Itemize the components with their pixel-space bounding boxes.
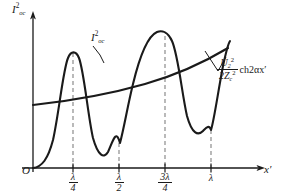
envelope-denominator: 2Zc2 [217, 69, 238, 82]
oscillating-curve-label: I2oc [91, 31, 105, 44]
tick-label-three-quarter-lambda: 3λ 4 [154, 172, 176, 193]
envelope-fraction: U22 2Zc2 [217, 57, 238, 82]
envelope-curve-label: U22 2Zc2 ch2αx′ [217, 57, 266, 82]
tick-fraction-half-lambda: λ 2 [115, 172, 124, 193]
tick-numerator-three-quarter-lambda: 3λ [158, 172, 171, 182]
x-axis-label: x′ [264, 164, 271, 175]
y-axis-label-subscript: oc [19, 9, 25, 16]
envelope-denominator-exponent: 2 [232, 69, 235, 76]
tick-label-quarter-lambda: λ 4 [63, 172, 83, 193]
tick-fraction-three-quarter-lambda: 3λ 4 [158, 172, 171, 193]
tick-fraction-quarter-lambda: λ 4 [69, 172, 78, 193]
oscillating-curve [33, 53, 119, 168]
y-axis [30, 11, 36, 172]
tick-denominator-quarter-lambda: 4 [69, 182, 78, 193]
tick-numerator-quarter-lambda: λ [69, 172, 78, 182]
y-axis-label: I2oc [12, 3, 26, 16]
tick-numerator-lambda: λ [207, 173, 215, 183]
envelope-numerator: U22 [217, 57, 238, 69]
envelope-denominator-base: 2Z [219, 70, 230, 81]
tick-label-half-lambda: λ 2 [109, 172, 129, 193]
figure-canvas: I2oc I2oc U22 2Zc2 ch2αx′ O x′ λ 4 λ 2 3… [0, 0, 288, 196]
plot-svg [0, 0, 288, 196]
oscillating-curve-label-subscript: oc [98, 37, 104, 44]
tick-numerator-half-lambda: λ [115, 172, 124, 182]
origin-label: O [22, 165, 30, 176]
x-axis [22, 165, 265, 171]
oscillating-curve-main [33, 31, 230, 168]
tick-denominator-half-lambda: 2 [115, 182, 124, 193]
envelope-numerator-subscript: 2 [228, 63, 231, 69]
envelope-numerator-exponent: 2 [231, 56, 234, 63]
oscillating-curve-leader-line [93, 46, 104, 63]
envelope-numerator-base: U [221, 57, 228, 68]
envelope-denominator-subscript: c [230, 76, 233, 82]
envelope-cosh-term: ch2αx′ [238, 65, 267, 75]
tick-fraction-lambda: λ [207, 173, 215, 183]
tick-denominator-three-quarter-lambda: 4 [158, 182, 171, 193]
tick-label-lambda: λ [201, 172, 221, 183]
